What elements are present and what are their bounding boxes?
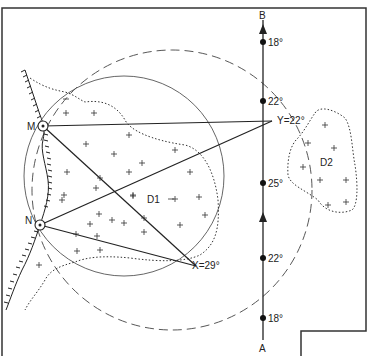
axis-point-label: 22°	[268, 96, 283, 107]
target-x-label: X=29°	[192, 260, 220, 271]
arrow-up-icon-mid	[259, 212, 267, 222]
region-d1-label: D1	[147, 194, 160, 205]
axis-point-label: 18°	[268, 313, 283, 324]
diagram-canvas: 18° 22° 25° 22° 18° B A M N Y=22° X=29° …	[0, 0, 369, 356]
axis-start-label-a: A	[259, 343, 266, 354]
station-m-label: M	[27, 121, 35, 132]
target-y-label: Y=22°	[277, 115, 305, 126]
station-n-dot	[39, 224, 42, 227]
solid-range-circle	[24, 76, 224, 276]
station-m-dot	[42, 125, 45, 128]
axis-point-label: 22°	[268, 253, 283, 264]
station-n-label: N	[25, 215, 32, 226]
arrow-up-icon-top	[259, 24, 267, 34]
coastline-hatch	[4, 70, 52, 310]
region-d2-label: D2	[320, 157, 333, 168]
axis-end-label-b: B	[259, 10, 266, 21]
d1-dotted-boundary	[25, 78, 218, 310]
axis-point-label: 25°	[268, 178, 283, 189]
dashed-range-circle	[32, 50, 312, 330]
axis-point-label: 18°	[268, 37, 283, 48]
